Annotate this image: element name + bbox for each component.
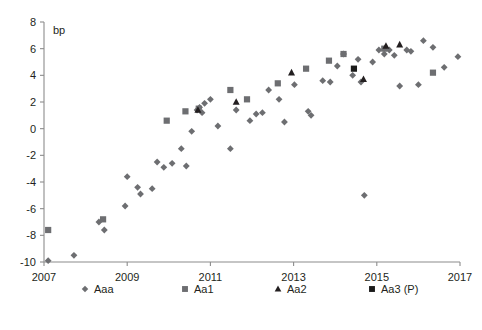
x-tick-label: 2007 — [32, 271, 56, 283]
marker-square — [351, 66, 357, 72]
y-axis-unit-label: bp — [53, 24, 65, 36]
y-tick-label: 2 — [30, 96, 36, 108]
legend-label: Aaa — [94, 283, 114, 295]
x-tick-label: 2015 — [365, 271, 389, 283]
x-tick-label: 2017 — [448, 271, 472, 283]
marker-square — [326, 58, 332, 64]
y-tick-label: -6 — [26, 203, 36, 215]
marker-square — [100, 216, 106, 222]
y-tick-label: 6 — [30, 43, 36, 55]
x-tick-label: 2013 — [281, 271, 305, 283]
scatter-chart: -10-8-6-4-202468 20072009201120132015201… — [0, 0, 482, 330]
y-tick-label: 0 — [30, 123, 36, 135]
marker-square — [182, 286, 188, 292]
marker-square — [275, 80, 281, 86]
marker-square — [244, 96, 250, 102]
y-tick-label: -10 — [20, 256, 36, 268]
legend-label: Aa2 — [287, 283, 307, 295]
marker-square — [369, 286, 375, 292]
legend-label: Aa1 — [194, 283, 214, 295]
marker-square — [164, 118, 170, 124]
chart-canvas: -10-8-6-4-202468 20072009201120132015201… — [0, 0, 482, 330]
x-tick-label: 2009 — [115, 271, 139, 283]
marker-square — [340, 51, 346, 57]
y-tick-label: 4 — [30, 69, 36, 81]
marker-square — [45, 227, 51, 233]
marker-square — [430, 70, 436, 76]
y-tick-label: -8 — [26, 229, 36, 241]
x-tick-label: 2011 — [199, 271, 223, 283]
marker-square — [303, 66, 309, 72]
y-tick-label: -2 — [26, 149, 36, 161]
y-tick-label: 8 — [30, 16, 36, 28]
y-tick-label: -4 — [26, 176, 36, 188]
y-axis-unit-text: bp — [53, 24, 65, 36]
marker-square — [182, 108, 188, 114]
series-aa3-p — [351, 66, 357, 72]
marker-square — [227, 87, 233, 93]
legend-label: Aa3 (P) — [381, 283, 418, 295]
